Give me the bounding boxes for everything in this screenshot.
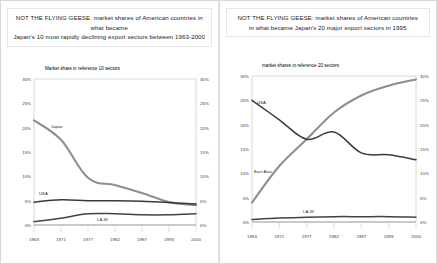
y-tick-left-0: 0% <box>25 223 31 228</box>
y-tick-right-25-left-panel: 25% <box>200 101 209 106</box>
y-tick-right-10-left-panel: 10% <box>200 174 209 179</box>
y-tick-left-15-right-panel: 15% <box>240 147 249 152</box>
series-line-law-right <box>252 217 416 220</box>
y-tick-right-0-left-panel: 0% <box>200 223 206 228</box>
series-line-japan <box>34 120 196 205</box>
panel-title-right-line1: NOT THE FLYING GEESE: market shares of A… <box>238 14 418 21</box>
chart-panel-right: NOT THE FLYING GEESE: market shares of A… <box>219 0 437 264</box>
x-tick-left-5: 1993 <box>164 237 174 242</box>
y-tick-right-15: 15% <box>420 147 429 152</box>
y-tick-right-30-left-panel: 30% <box>200 77 209 82</box>
chart-svg-right: market shares in reference 20 sectors 30… <box>220 1 437 264</box>
y-tick-left-5-right-panel: 5% <box>242 196 248 201</box>
panel-title-left: NOT THE FLYING GEESE: market shares of A… <box>7 8 212 47</box>
series-line-usa-right <box>252 100 416 159</box>
y-tick-left-20-right-panel: 20% <box>240 123 249 128</box>
y-tick-left-25-right-panel: 25% <box>240 98 249 103</box>
y-tick-left-5: 5% <box>25 199 31 204</box>
y-tick-right-5: 5% <box>420 196 426 201</box>
y-tick-right-30: 30% <box>420 74 429 79</box>
chart-subtitle-right: market shares in reference 20 sectors <box>262 63 340 68</box>
x-tick-right-6: 2000 <box>411 234 421 239</box>
x-tick-left-6: 2000 <box>191 237 201 242</box>
y-tick-right-10: 10% <box>420 171 429 176</box>
series-label-japan: Japan <box>51 124 63 129</box>
y-tick-right-0: 0% <box>420 220 426 225</box>
x-tick-right-5: 1993 <box>383 234 393 239</box>
x-tick-left-4: 1987 <box>137 237 147 242</box>
series-label-east-asia: East Asia <box>254 169 273 174</box>
slide-root: NOT THE FLYING GEESE: market shares of A… <box>0 0 437 264</box>
y-tick-right-20: 20% <box>420 123 429 128</box>
y-tick-right-25: 25% <box>420 98 429 103</box>
chart-panel-left: NOT THE FLYING GEESE: market shares of A… <box>0 0 219 264</box>
x-tick-right-0: 1963 <box>247 234 257 239</box>
x-tick-left-0: 1963 <box>29 237 39 242</box>
y-tick-right-15-left-panel: 15% <box>200 150 209 155</box>
series-line-usa-left <box>34 200 196 204</box>
chart-subtitle-left: Market share in reference 10 sectors <box>45 66 121 71</box>
series-line-east-asia <box>252 79 416 202</box>
plot-frame-left <box>34 79 196 225</box>
series-label-usa-left: USA <box>39 191 48 196</box>
series-label-law-right: LA-W <box>303 209 315 214</box>
y-tick-left-10: 10% <box>22 174 31 179</box>
x-tick-right-1: 1971 <box>274 234 284 239</box>
y-tick-left-20: 20% <box>22 126 31 131</box>
x-tick-left-2: 1977 <box>83 237 93 242</box>
x-tick-left-3: 1982 <box>110 237 120 242</box>
plot-frame-right <box>252 76 416 222</box>
panel-title-right: NOT THE FLYING GEESE: market shares of A… <box>226 8 431 37</box>
x-tick-right-3: 1982 <box>329 234 339 239</box>
y-tick-right-5-left-panel: 5% <box>200 199 206 204</box>
series-label-law-left: LA-W <box>97 217 109 222</box>
y-tick-left-15: 15% <box>22 150 31 155</box>
panel-title-left-line2: Japan's 10 most rapidly declining export… <box>11 32 208 42</box>
y-tick-left-30-right-panel: 30% <box>240 74 249 79</box>
x-tick-right-4: 1987 <box>356 234 366 239</box>
y-tick-left-10-right-panel: 10% <box>240 171 249 176</box>
series-label-usa-right: USA <box>257 100 266 105</box>
x-tick-left-1: 1971 <box>56 237 66 242</box>
panel-title-left-line1: NOT THE FLYING GEESE: market shares of A… <box>16 14 203 31</box>
x-tick-right-2: 1977 <box>301 234 311 239</box>
y-tick-right-20-left-panel: 20% <box>200 126 209 131</box>
y-tick-left-30: 30% <box>22 77 31 82</box>
panel-title-right-line2: in what became Japan's 20 major export s… <box>230 23 427 33</box>
y-tick-left-25: 25% <box>22 101 31 106</box>
plot-area-right: market shares in reference 20 sectors 30… <box>220 1 437 263</box>
y-tick-left-0-right-panel: 0% <box>242 220 248 225</box>
series-line-law-left <box>34 213 196 221</box>
